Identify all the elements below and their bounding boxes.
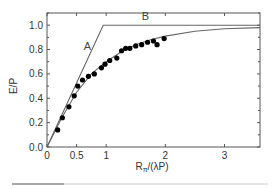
data-point xyxy=(75,83,80,88)
y-axis-label: E/P xyxy=(8,78,19,94)
y-tick-label: 0.6 xyxy=(29,68,43,79)
axis-ticks xyxy=(47,13,260,147)
data-point xyxy=(80,77,85,82)
data-point xyxy=(92,71,97,76)
data-point xyxy=(133,43,138,48)
annotation-a: A xyxy=(84,40,92,52)
y-tick-label: 0.8 xyxy=(29,44,43,55)
plot-frame xyxy=(47,13,260,147)
data-point xyxy=(55,127,60,132)
x-tick-label: 1 xyxy=(103,150,109,161)
y-tick-label: 0.0 xyxy=(29,142,43,153)
chart-canvas: 00.51230.00.20.40.60.81.0AB Rπ/(λP) E/P xyxy=(0,0,273,189)
data-point xyxy=(145,40,150,45)
x-tick-label: 3 xyxy=(222,150,228,161)
data-point xyxy=(114,55,119,60)
data-point xyxy=(154,42,159,47)
data-point xyxy=(162,36,167,41)
y-tick-label: 1.0 xyxy=(29,20,43,31)
data-point xyxy=(60,115,65,120)
x-tick-label: 0.5 xyxy=(70,150,84,161)
data-points xyxy=(55,36,167,133)
y-tick-label: 0.4 xyxy=(29,93,43,104)
y-tick-label: 0.2 xyxy=(29,117,43,128)
data-point xyxy=(139,42,144,47)
data-point xyxy=(72,93,77,98)
data-point xyxy=(107,58,112,63)
data-point xyxy=(127,46,132,51)
x-tick-label: 2 xyxy=(163,150,169,161)
x-axis-label: Rπ/(λP) xyxy=(135,161,168,173)
plot-border xyxy=(47,13,260,147)
annotation-b: B xyxy=(142,10,149,22)
data-point xyxy=(66,104,71,109)
data-point xyxy=(102,62,107,67)
x-tick-label: 0 xyxy=(44,150,50,161)
data-point xyxy=(86,74,91,79)
axis-labels: 00.51230.00.20.40.60.81.0AB xyxy=(29,10,228,161)
